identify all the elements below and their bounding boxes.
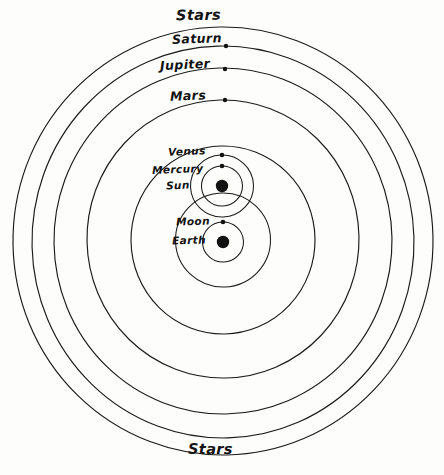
- label-sun: Sun: [166, 179, 190, 192]
- marker-earth: [217, 236, 229, 248]
- marker-moon: [221, 220, 226, 225]
- label-mars: Mars: [170, 87, 207, 103]
- marker-venus: [220, 153, 225, 158]
- label-stars-bottom: Stars: [188, 441, 233, 457]
- cosmology-diagram: Stars Saturn Jupiter Mars Venus Mercury …: [0, 0, 444, 475]
- label-mercury: Mercury: [152, 162, 204, 176]
- label-stars-top: Stars: [176, 7, 221, 23]
- orbit-canvas: [0, 0, 444, 475]
- label-jupiter: Jupiter: [160, 56, 211, 74]
- label-moon: Moon: [176, 214, 210, 227]
- marker-mars: [223, 98, 227, 102]
- label-earth: Earth: [172, 233, 206, 246]
- label-venus: Venus: [168, 144, 206, 157]
- label-saturn: Saturn: [172, 30, 222, 47]
- marker-sun: [216, 180, 228, 192]
- marker-saturn: [224, 44, 228, 48]
- marker-jupiter: [223, 67, 227, 71]
- marker-mercury: [220, 164, 225, 169]
